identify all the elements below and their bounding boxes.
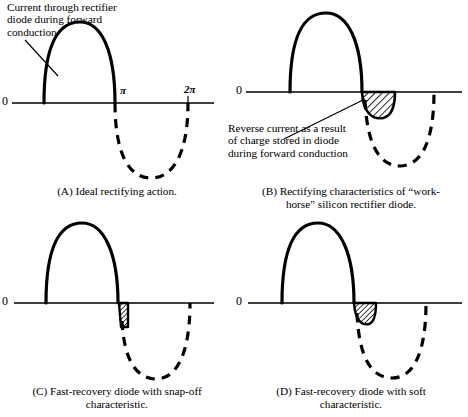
zero-label: 0	[2, 94, 8, 109]
panel-d-plot	[234, 209, 468, 384]
blocked-half-cycle	[122, 303, 190, 379]
caption-panel-b: (B) Rectifying characteristics of “work-…	[234, 185, 468, 210]
annotation-reverse-current: Reverse current as a result of charge st…	[228, 122, 348, 159]
blocked-half-cycle	[115, 103, 188, 178]
conducting-half-cycle	[46, 223, 118, 303]
rectifier-waveform-figure: 0 π 2π Current through rectifier diode d…	[0, 0, 468, 417]
caption-panel-d: (D) Fast-recovery diode with soft charac…	[234, 385, 468, 410]
panel-c-plot	[0, 209, 234, 384]
tick-label-2pi: 2π	[184, 83, 196, 95]
conducting-half-cycle	[282, 223, 354, 303]
zero-label: 0	[236, 294, 242, 309]
zero-label: 0	[236, 83, 242, 98]
reverse-recovery-lobe	[362, 92, 395, 118]
caption-panel-c: (C) Fast-recovery diode with snap-off ch…	[0, 385, 234, 410]
annotation-forward-conduction: Current through rectifier diode during f…	[7, 1, 117, 38]
conducting-half-cycle	[290, 13, 362, 92]
zero-label: 0	[2, 294, 8, 309]
panel-b: 0	[234, 0, 468, 208]
tick-label-pi: π	[120, 84, 126, 96]
caption-panel-a: (A) Ideal rectifying action.	[0, 185, 234, 198]
